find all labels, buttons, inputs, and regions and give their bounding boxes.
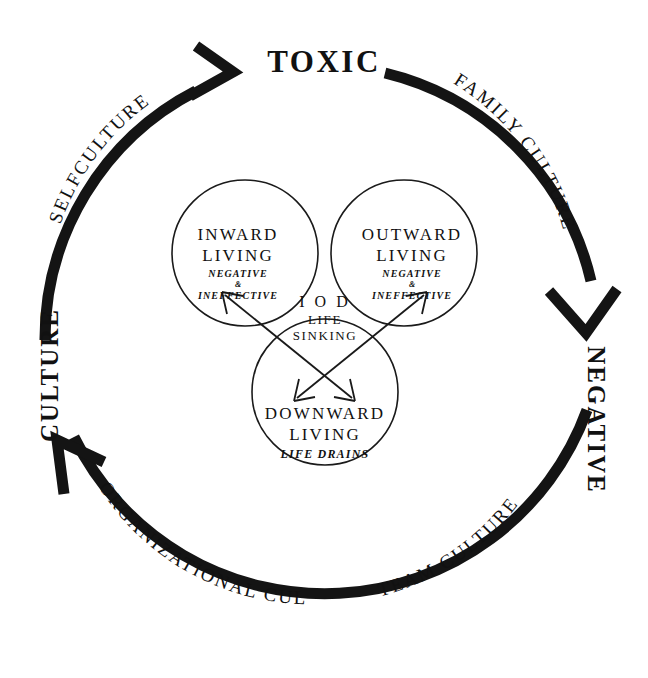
venn-label-inward: INWARD LIVING NEGATIVE & INEFFECTIVE — [197, 225, 279, 301]
venn-label-downward: DOWNWARD LIVING LIFE DRAINS — [265, 404, 386, 461]
venn-outward-title-1: OUTWARD — [362, 225, 462, 244]
cycle-top-label: TOXIC — [267, 44, 381, 79]
venn-center-line-1: I O D — [299, 293, 350, 310]
ring-arrowhead-top-left — [190, 46, 233, 96]
arc-label-team-culture: TEAM CULTURE — [375, 493, 522, 601]
venn-inward-title-1: INWARD — [197, 225, 278, 244]
cycle-right-label: NEGATIVE — [583, 346, 610, 494]
venn-downward-title-2: LIVING — [289, 425, 361, 444]
venn-label-center: I O D LIFE SINKING — [293, 293, 358, 343]
venn-label-outward: OUTWARD LIVING NEGATIVE & INEFFECTIVE — [362, 225, 462, 301]
venn-inward-sub-1: NEGATIVE — [207, 268, 267, 279]
venn-inward-title-2: LIVING — [202, 246, 274, 265]
venn-center-line-2: LIFE — [308, 312, 342, 327]
cycle-left-label: CULTURE — [36, 308, 63, 442]
venn-outward-title-2: LIVING — [376, 246, 448, 265]
venn-inward-sub-2: INEFFECTIVE — [197, 290, 278, 301]
arc-label-selfculture: SELFCULTURE — [44, 89, 153, 226]
venn-outward-ampersand: & — [409, 280, 416, 289]
diagram-canvas: TOXIC CULTURE NEGATIVE SELFCULTURE FAMIL… — [0, 0, 648, 678]
toxic-culture-diagram: TOXIC CULTURE NEGATIVE SELFCULTURE FAMIL… — [0, 0, 648, 678]
venn-outward-sub-2: INEFFECTIVE — [371, 290, 452, 301]
venn-center-line-3: SINKING — [293, 328, 358, 343]
ring-arrowhead-right — [549, 289, 617, 333]
venn-outward-sub-1: NEGATIVE — [381, 268, 441, 279]
venn-downward-sub-1: LIFE DRAINS — [280, 447, 370, 461]
venn-inward-ampersand: & — [235, 280, 242, 289]
venn-downward-title-1: DOWNWARD — [265, 404, 386, 423]
